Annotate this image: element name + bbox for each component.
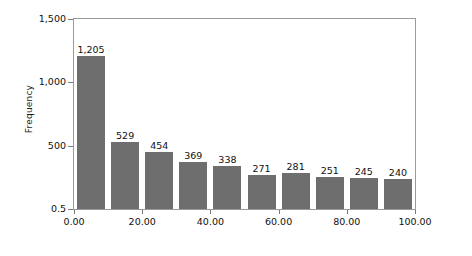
bar[interactable] — [350, 178, 378, 209]
bar-value-label: 245 — [355, 166, 373, 177]
bar-group[interactable]: 281 — [282, 19, 310, 209]
x-axis-tick-label: 100.00 — [398, 216, 431, 228]
bar[interactable] — [77, 56, 105, 209]
histogram-chart: Frequency 1,5001,0005000.5 1,20552945436… — [0, 0, 472, 256]
bar-value-label: 281 — [287, 161, 305, 172]
bar-value-label: 369 — [184, 150, 202, 161]
bar-group[interactable]: 369 — [179, 19, 207, 209]
x-axis-tick-mark — [415, 210, 416, 214]
bar[interactable] — [145, 152, 173, 209]
bar-value-label: 271 — [252, 163, 270, 174]
bar-group[interactable]: 240 — [384, 19, 412, 209]
y-axis-tick-label: 500 — [22, 141, 66, 151]
x-axis-tick-label: 20.00 — [129, 216, 156, 228]
x-axis-tick-mark — [142, 210, 143, 214]
bar[interactable] — [111, 142, 139, 209]
bar-group[interactable]: 271 — [248, 19, 276, 209]
bar-group[interactable]: 251 — [316, 19, 344, 209]
bar-value-label: 338 — [218, 154, 236, 165]
bar-group[interactable]: 454 — [145, 19, 173, 209]
x-axis-tick-mark — [210, 210, 211, 214]
bars-layer: 1,205529454369338271281251245240 — [74, 19, 415, 209]
bar-value-label: 251 — [321, 165, 339, 176]
x-axis-tick-mark — [347, 210, 348, 214]
bar[interactable] — [248, 175, 276, 209]
y-axis-tick-labels: 1,5001,0005000.5 — [22, 0, 66, 256]
x-axis-tick-label: 40.00 — [197, 216, 224, 228]
bar-group[interactable]: 529 — [111, 19, 139, 209]
bar[interactable] — [179, 162, 207, 209]
bar-value-label: 529 — [116, 130, 134, 141]
x-axis-tick-mark — [279, 210, 280, 214]
bar-value-label: 454 — [150, 140, 168, 151]
y-axis-tick-label: 1,500 — [22, 14, 66, 24]
bar-group[interactable]: 245 — [350, 19, 378, 209]
bar-value-label: 1,205 — [77, 44, 104, 55]
bar-group[interactable]: 338 — [213, 19, 241, 209]
x-axis-tick-label: 60.00 — [265, 216, 292, 228]
x-axis-tick-label: 0.00 — [63, 216, 84, 228]
bar[interactable] — [316, 177, 344, 209]
bar[interactable] — [213, 166, 241, 209]
bar-value-label: 240 — [389, 167, 407, 178]
bar[interactable] — [384, 179, 412, 209]
y-axis-tick-label: 0.5 — [22, 204, 66, 214]
bar-group[interactable]: 1,205 — [77, 19, 105, 209]
x-axis-tick-label: 80.00 — [333, 216, 360, 228]
y-axis-tick-label: 1,000 — [22, 77, 66, 87]
bar[interactable] — [282, 173, 310, 209]
x-axis-tick-mark — [74, 210, 75, 214]
